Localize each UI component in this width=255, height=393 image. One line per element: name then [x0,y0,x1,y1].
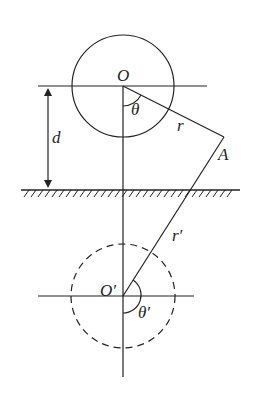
label-O: O [117,66,129,85]
label-d: d [52,128,61,147]
ground-hatching [24,190,232,197]
label-theta: θ [131,100,139,119]
image-method-diagram: O θ r A d r′ O′ θ′ [0,0,255,393]
label-O-prime: O′ [100,281,116,300]
label-r: r [177,116,184,135]
label-theta-prime: θ′ [138,303,150,322]
label-A: A [217,145,229,164]
label-r-prime: r′ [172,226,183,245]
diagram-canvas: O θ r A d r′ O′ θ′ [0,0,255,393]
radius-r-prime-line [123,137,224,296]
